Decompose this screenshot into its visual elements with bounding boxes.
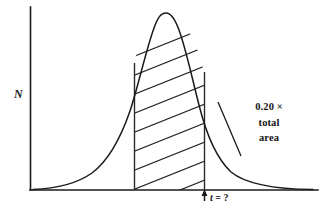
callout-line-1: 0.20 × <box>241 99 297 115</box>
callout-line-2: total <box>241 115 297 131</box>
t-equals-question: = ? <box>213 192 229 203</box>
figure-container: N 0.20 × total area t = ? <box>0 0 324 223</box>
y-axis-label: N <box>14 88 23 100</box>
callout-leader-line <box>218 102 241 156</box>
callout-line-3: area <box>241 130 297 146</box>
t-unknown-label: t = ? <box>210 192 228 203</box>
area-callout-label: 0.20 × total area <box>241 99 297 146</box>
hatch-line <box>120 22 220 62</box>
